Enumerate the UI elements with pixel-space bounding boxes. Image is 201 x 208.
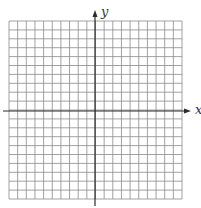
coordinate-plane [0,0,201,208]
x-axis-label: x [195,103,201,116]
y-axis-arrow-icon [93,10,98,17]
y-axis-label: y [101,5,108,18]
x-axis-arrow-icon [184,109,191,114]
